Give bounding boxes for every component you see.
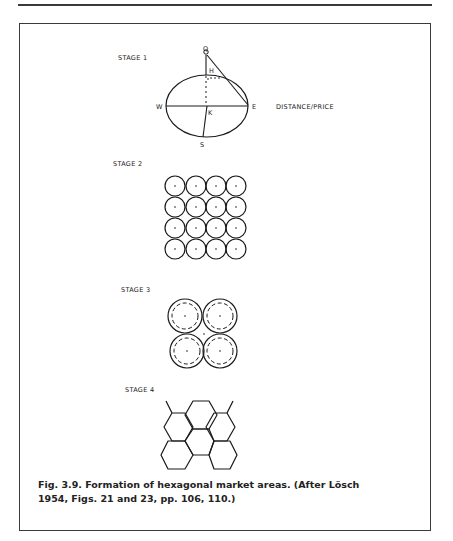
- circle-grid: [165, 176, 246, 259]
- dashed-inner-circles: [172, 303, 233, 364]
- point-k-label: K: [208, 109, 213, 117]
- stage-1-label: STAGE 1: [118, 54, 147, 62]
- distance-price-label: DISTANCE/PRICE: [276, 103, 334, 111]
- point-h-label: H: [209, 67, 214, 75]
- stage-3-label: STAGE 3: [121, 286, 150, 294]
- stage-1: STAGE 1 Q H W E K S DISTANCE/PRICE: [118, 45, 334, 149]
- stage-4-label: STAGE 4: [125, 386, 154, 394]
- caption-line-1: Fig. 3.9. Formation of hexagonal market …: [38, 478, 368, 492]
- stage-3: STAGE 3: [121, 286, 237, 368]
- point-s-label: S: [200, 141, 204, 149]
- ks-line: [203, 106, 207, 137]
- stage-2-label: STAGE 2: [113, 160, 142, 168]
- hexagon-lattice: [161, 401, 237, 469]
- caption-line-2: 1954, Figs. 21 and 23, pp. 106, 110.): [38, 492, 368, 506]
- point-q-label: Q: [203, 45, 208, 53]
- stage-2: STAGE 2: [113, 160, 246, 259]
- qe-demand-line: [207, 55, 248, 105]
- figure-caption: Fig. 3.9. Formation of hexagonal market …: [38, 478, 368, 506]
- overlapping-circles: [168, 299, 237, 368]
- figure-diagram: STAGE 1 Q H W E K S DISTANCE/PRICE STAGE…: [0, 0, 453, 541]
- stage-4: STAGE 4: [125, 386, 237, 469]
- point-e-label: E: [252, 103, 256, 111]
- h-dashed-marker: [208, 78, 222, 80]
- point-w-label: W: [156, 103, 163, 111]
- stage-3-centers: [184, 315, 221, 352]
- circle-centers: [174, 185, 237, 250]
